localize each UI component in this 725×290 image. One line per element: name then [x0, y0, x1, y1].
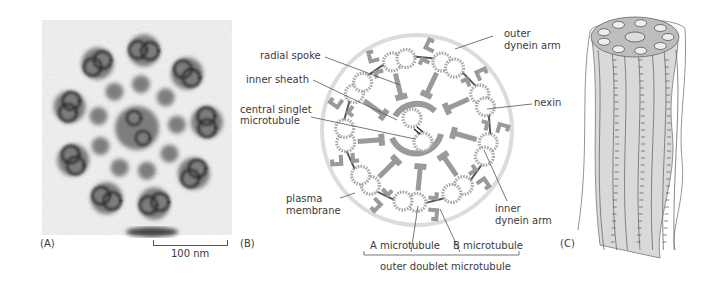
outer-dynein-arm	[371, 198, 381, 211]
outer-dynein-arm	[332, 155, 341, 165]
central-singlet-microtubule	[414, 133, 432, 151]
label-b-microtubule: B microtubule	[453, 240, 523, 251]
b-microtubule	[336, 119, 354, 137]
panel-a-micrograph: (A) 100 nm	[0, 0, 240, 290]
doublet-end	[598, 29, 610, 36]
label-nexin: nexin	[534, 97, 561, 108]
label-outer-dynein-1: outer	[504, 28, 531, 39]
inner-dynein-arm	[482, 121, 488, 130]
em-density	[157, 88, 175, 106]
radial-spoke	[454, 133, 477, 139]
b-microtubule	[394, 192, 412, 210]
radial-spoke	[418, 167, 420, 191]
em-density	[168, 116, 186, 134]
inner-dynein-arm	[428, 192, 437, 198]
em-density	[191, 106, 223, 138]
outer-dynein-arm	[368, 51, 379, 61]
inner-dynein-arm	[469, 165, 476, 174]
central-pair-end	[625, 32, 645, 42]
leader-outer-dynein	[455, 36, 493, 49]
b-microtubule	[476, 98, 494, 116]
em-density	[160, 145, 178, 163]
radial-spoke	[358, 140, 382, 142]
inner-dynein-arm	[353, 153, 360, 161]
b-microtubule	[443, 184, 461, 202]
outer-dynein-arm	[497, 124, 508, 133]
label-central-singlet-2: microtubule	[240, 115, 300, 126]
em-density	[105, 83, 123, 101]
b-microtubule	[352, 166, 370, 184]
spoke-head	[452, 127, 455, 139]
radial-spoke	[426, 73, 436, 95]
outer-dynein-arm	[428, 209, 437, 219]
spoke-head	[381, 134, 382, 146]
doublet-end	[598, 38, 610, 45]
em-density	[54, 91, 86, 123]
em-density	[138, 188, 170, 220]
doublet-end	[613, 21, 625, 28]
axoneme-body	[592, 40, 678, 258]
doublet-end	[654, 25, 666, 32]
outer-dynein-arm	[477, 69, 487, 81]
label-inner-sheath: inner sheath	[246, 74, 309, 85]
axoneme-3d-illustration	[560, 0, 725, 290]
radial-spoke	[443, 156, 457, 176]
em-density	[111, 159, 129, 177]
panel-c-axoneme-3d: (C)	[560, 0, 725, 290]
panel-letter-b: (B)	[240, 238, 255, 249]
label-a-microtubule: A microtubule	[370, 240, 440, 251]
central-singlet-microtubule	[403, 109, 421, 127]
label-inner-dynein-2: dynein arm	[495, 215, 552, 226]
em-density	[128, 34, 160, 66]
outer-dynein-arm	[330, 98, 343, 107]
label-central-singlet-1: central singlet	[240, 104, 312, 115]
b-microtubule	[475, 147, 493, 165]
panel-letter-c: (C)	[560, 238, 575, 249]
radial-spoke	[379, 160, 396, 177]
radial-spoke	[395, 74, 401, 97]
doublet-end	[654, 42, 666, 49]
micrograph-image	[0, 0, 240, 290]
em-density	[132, 75, 150, 93]
b-microtubule	[446, 59, 464, 77]
inner-dynein-arm	[420, 59, 430, 64]
scale-bar-label: 100 nm	[171, 248, 209, 259]
panel-letter-a: (A)	[40, 238, 55, 249]
label-outer-doublet: outer doublet microtubule	[380, 261, 511, 272]
doublet-end	[635, 20, 647, 27]
label-inner-dynein-1: inner	[495, 203, 521, 214]
doublet-end	[662, 34, 674, 41]
em-density	[89, 107, 107, 125]
label-radial-spoke: radial spoke	[260, 50, 321, 61]
spoke-head	[414, 166, 426, 167]
central-bridge	[417, 127, 423, 132]
label-plasma-2: membrane	[286, 205, 341, 216]
em-density	[138, 162, 156, 180]
b-microtubule	[397, 50, 415, 68]
em-density	[92, 137, 110, 155]
leader-central-singlet	[311, 117, 415, 139]
panel-b-schematic: radial spoke inner sheath central single…	[240, 0, 560, 290]
inner-dynein-arm	[348, 106, 353, 116]
outer-doublet-bracket	[364, 251, 519, 255]
doublet-line	[674, 50, 678, 250]
scale-bar	[153, 240, 228, 246]
em-density	[57, 144, 89, 176]
outer-dynein-arm	[477, 179, 490, 189]
central-bridge	[414, 129, 420, 134]
inner-dynein-arm	[461, 79, 470, 86]
spoke-head	[444, 103, 449, 114]
outer-dynein-arm	[426, 39, 434, 51]
doublet-end	[613, 46, 625, 53]
label-outer-dynein-2: dynein arm	[504, 40, 561, 51]
label-plasma-1: plasma	[286, 193, 322, 204]
radial-spoke	[447, 99, 469, 109]
spoke-head	[395, 95, 407, 98]
b-microtubule	[354, 73, 372, 91]
doublet-end	[635, 47, 647, 54]
spoke-head	[421, 92, 432, 97]
